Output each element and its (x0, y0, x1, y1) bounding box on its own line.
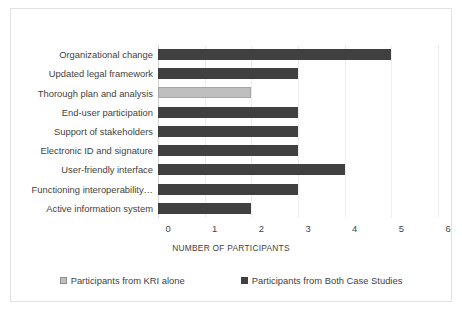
category-label: User-friendly interface (61, 164, 158, 175)
legend-label: Participants from KRI alone (71, 275, 185, 286)
category-label: Organizational change (59, 49, 158, 60)
bar[interactable] (158, 68, 298, 79)
category-label: Thorough plan and analysis (38, 88, 158, 99)
x-axis-title: NUMBER OF PARTICIPANTS (11, 243, 451, 253)
bar[interactable] (158, 203, 251, 214)
category-label: Functioning interoperability… (32, 184, 158, 195)
x-tick-label: 4 (352, 223, 357, 234)
bar[interactable] (158, 184, 298, 195)
category-label-row: Electronic ID and signature (29, 141, 158, 160)
bar-row (158, 83, 438, 102)
x-tick-label: 3 (305, 223, 310, 234)
legend-swatch-icon (241, 277, 248, 284)
bar[interactable] (158, 164, 345, 175)
x-tick-label: 1 (212, 223, 217, 234)
x-tick-label: 0 (165, 223, 170, 234)
bar-row (158, 122, 438, 141)
category-label: Support of stakeholders (54, 126, 158, 137)
bar[interactable] (158, 126, 298, 137)
bar[interactable] (158, 87, 251, 98)
x-tick-label: 2 (259, 223, 264, 234)
category-label: Electronic ID and signature (40, 145, 158, 156)
category-label: Active information system (46, 203, 158, 214)
x-axis-tick-labels: 0123456 (158, 223, 448, 237)
gridline-6 (438, 45, 439, 218)
chart-frame: Organizational changeUpdated legal frame… (10, 8, 452, 302)
category-label-row: Support of stakeholders (29, 122, 158, 141)
bar-row (158, 103, 438, 122)
bar-row (158, 141, 438, 160)
category-label-row: Active information system (29, 199, 158, 218)
bar[interactable] (158, 107, 298, 118)
bars-layer (158, 45, 438, 218)
bar-row (158, 160, 438, 179)
plot-area (148, 45, 438, 225)
chart-legend: Participants from KRI aloneParticipants … (11, 275, 451, 286)
legend-label: Participants from Both Case Studies (252, 275, 403, 286)
legend-swatch-icon (60, 277, 67, 284)
x-tick-label: 5 (399, 223, 404, 234)
bar-row (158, 64, 438, 83)
legend-item[interactable]: Participants from KRI alone (60, 275, 185, 286)
category-label-row: Organizational change (29, 45, 158, 64)
legend-item[interactable]: Participants from Both Case Studies (241, 275, 403, 286)
bar-row (158, 45, 438, 64)
category-label-row: User-friendly interface (29, 160, 158, 179)
bar[interactable] (158, 145, 298, 156)
bar-row (158, 180, 438, 199)
bar-row (158, 199, 438, 218)
category-axis-labels: Organizational changeUpdated legal frame… (29, 45, 158, 218)
category-label-row: End-user participation (29, 103, 158, 122)
x-tick-label: 6 (445, 223, 450, 234)
category-label-row: Thorough plan and analysis (29, 83, 158, 102)
bar[interactable] (158, 49, 391, 60)
category-label: Updated legal framework (49, 68, 158, 79)
category-label-row: Updated legal framework (29, 64, 158, 83)
category-label: End-user participation (62, 107, 158, 118)
category-label-row: Functioning interoperability… (29, 180, 158, 199)
